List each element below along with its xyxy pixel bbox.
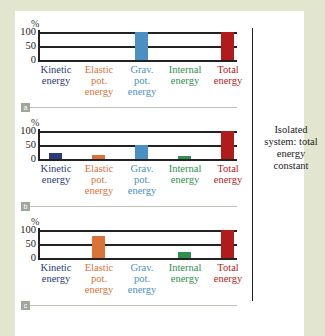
brace [252, 28, 259, 301]
bar-0 [49, 153, 62, 159]
gridline [38, 230, 237, 232]
y-tick-100: 100 [14, 26, 36, 37]
y-tick-50: 50 [14, 40, 36, 51]
bar-2 [135, 32, 148, 60]
separator [30, 107, 237, 108]
separator [30, 305, 237, 306]
y-tick-50: 50 [14, 238, 36, 249]
bar-2 [135, 145, 148, 159]
bar-3 [178, 252, 191, 258]
y-tick-100: 100 [14, 224, 36, 235]
bar-1 [92, 236, 105, 258]
panel-tag: a [21, 103, 30, 112]
bar-3 [178, 156, 191, 159]
y-tick-50: 50 [14, 139, 36, 150]
bar-4 [221, 230, 234, 258]
gridline [38, 131, 237, 133]
y-tick-100: 100 [14, 125, 36, 136]
gridline [38, 258, 237, 260]
separator [30, 206, 237, 207]
gridline [38, 60, 237, 62]
gridline [38, 159, 237, 161]
gridline [38, 244, 237, 246]
category-label: Totalenergy [202, 163, 254, 185]
isolated-system-note: Isolated system: total energy constant [262, 124, 320, 172]
category-label: Totalenergy [202, 64, 254, 86]
panel-tag: c [21, 301, 30, 310]
bar-4 [221, 131, 234, 159]
bar-4 [221, 32, 234, 60]
bar-1 [92, 155, 105, 159]
category-label: Totalenergy [202, 262, 254, 284]
panel-tag: b [21, 202, 30, 211]
